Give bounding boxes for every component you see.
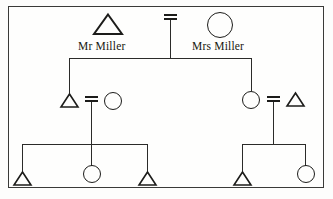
generation2-right-husband-triangle-icon <box>286 92 305 107</box>
generation2-left-child-drop-line <box>69 58 70 93</box>
generation3-right-sibling-bar <box>242 144 306 145</box>
generation3-left-child2-drop-line <box>91 144 92 166</box>
generation1-father-label: Mr Miller <box>78 41 125 53</box>
generation1-descent-line <box>170 20 171 58</box>
generation3-right-child1-drop-line <box>242 144 243 172</box>
generation3-left-child1-drop-line <box>22 144 23 172</box>
generation2-left-couple-descent-line <box>91 102 92 144</box>
generation1-mother-circle-icon <box>207 12 233 38</box>
generation3-left-child3-triangle-icon <box>138 171 157 186</box>
generation2-sibling-bar <box>69 58 252 59</box>
generation3-right-child2-circle-icon <box>297 165 315 183</box>
diagram-border: Mr Miller Mrs Miller <box>8 6 324 188</box>
generation3-right-child1-triangle-icon <box>233 171 252 186</box>
generation3-left-child1-triangle-icon <box>13 171 32 186</box>
generation2-right-child-drop-line <box>251 58 252 91</box>
generation3-right-child2-drop-line <box>305 144 306 166</box>
kinship-diagram: Mr Miller Mrs Miller <box>0 0 333 199</box>
generation2-right-daughter-circle-icon <box>242 91 260 109</box>
generation3-left-sibling-bar <box>22 144 148 145</box>
generation3-left-child2-circle-icon <box>83 165 101 183</box>
generation3-left-child3-drop-line <box>147 144 148 172</box>
generation1-mother-label: Mrs Miller <box>192 41 244 53</box>
generation2-left-wife-circle-icon <box>104 92 122 110</box>
generation1-father-triangle-icon <box>93 13 123 35</box>
generation2-right-couple-descent-line <box>273 102 274 144</box>
generation2-left-son-triangle-icon <box>60 93 79 108</box>
